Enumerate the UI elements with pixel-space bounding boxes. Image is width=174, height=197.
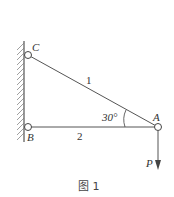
pin-b-icon xyxy=(25,124,32,131)
load-arrow-icon xyxy=(155,131,161,170)
node-label-b: B xyxy=(27,131,34,143)
member-label-2: 2 xyxy=(77,130,83,142)
node-label-c: C xyxy=(32,41,40,53)
wall-support xyxy=(17,41,24,142)
pin-c-icon xyxy=(25,52,32,59)
angle-label: 30° xyxy=(101,111,118,123)
member-1 xyxy=(28,55,158,127)
figure-caption: 图 1 xyxy=(78,180,100,193)
truss-diagram: C B A 1 2 30° P 图 1 xyxy=(0,0,174,197)
load-label: P xyxy=(145,157,153,169)
pin-a-icon xyxy=(155,124,162,131)
angle-arc-icon xyxy=(124,110,126,127)
member-label-1: 1 xyxy=(86,74,92,86)
node-label-a: A xyxy=(152,111,160,123)
